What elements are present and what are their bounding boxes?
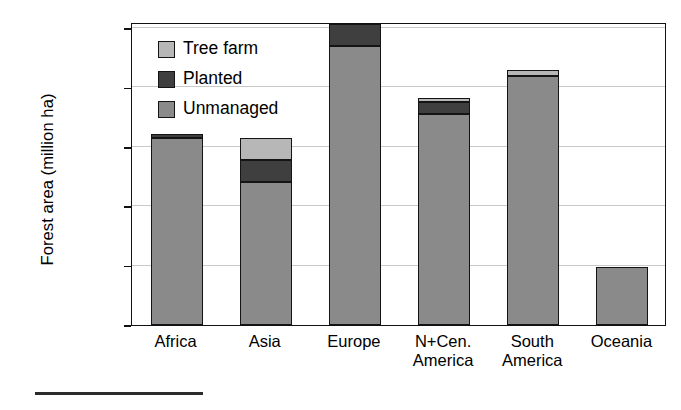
gridline	[132, 27, 665, 28]
y-tick-mark	[124, 266, 131, 268]
bar-segment-unmanaged	[507, 76, 559, 325]
legend-item-planted[interactable]: Planted	[158, 64, 373, 94]
x-tick-label-line: America	[457, 351, 607, 370]
legend-label: Tree farm	[183, 40, 258, 58]
bar-segment-unmanaged	[596, 267, 648, 325]
legend: Tree farmPlantedUnmanaged	[158, 34, 373, 124]
gridline	[132, 205, 665, 206]
bar-africa[interactable]	[151, 134, 203, 325]
bar-segment-treefarm	[507, 70, 559, 76]
y-tick-mark	[124, 88, 131, 90]
y-tick-mark	[124, 147, 131, 149]
legend-swatch-treefarm	[158, 41, 175, 58]
figure: Forest area (million ha) 020040060080010…	[0, 0, 681, 410]
x-tick-label-line: Oceania	[546, 332, 681, 351]
bar-segment-unmanaged	[418, 114, 470, 325]
y-tick-mark	[124, 28, 131, 30]
bar-segment-treefarm	[240, 138, 292, 160]
y-axis-title: Forest area (million ha)	[38, 55, 57, 305]
gridline	[132, 265, 665, 266]
y-tick-mark	[124, 206, 131, 208]
y-tick-mark	[124, 325, 131, 327]
legend-label: Planted	[183, 70, 242, 88]
legend-swatch-unmanaged	[158, 101, 175, 118]
bar-south-america[interactable]	[507, 70, 559, 325]
bar-segment-planted	[240, 160, 292, 182]
plot-area: Tree farmPlantedUnmanaged	[131, 23, 666, 326]
bar-asia[interactable]	[240, 138, 292, 325]
caption-rule	[35, 392, 203, 395]
legend-swatch-planted	[158, 71, 175, 88]
bar-segment-unmanaged	[240, 182, 292, 325]
legend-item-unmanaged[interactable]: Unmanaged	[158, 94, 373, 124]
legend-item-treefarm[interactable]: Tree farm	[158, 34, 373, 64]
bar-segment-planted	[418, 102, 470, 114]
bar-oceania[interactable]	[596, 267, 648, 325]
x-tick-label: Oceania	[546, 332, 681, 351]
bar-segment-unmanaged	[151, 138, 203, 325]
bar-segment-planted	[151, 134, 203, 138]
bar-segment-treefarm	[418, 98, 470, 102]
bar-n-cen-america[interactable]	[418, 98, 470, 325]
legend-label: Unmanaged	[183, 100, 278, 118]
gridline	[132, 146, 665, 147]
